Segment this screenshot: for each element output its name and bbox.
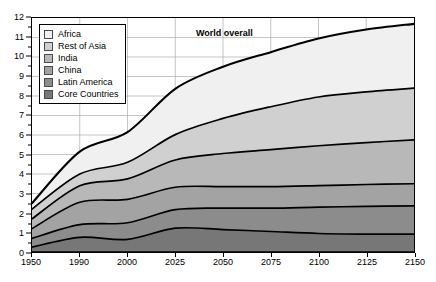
y-axis-tick-label: 5 — [19, 150, 24, 159]
y-axis-tick-mark — [26, 17, 31, 18]
legend-item-label: India — [58, 54, 78, 63]
y-axis-tick-mark — [26, 174, 31, 175]
y-axis-tick-label: 9 — [19, 72, 24, 81]
legend-item-label: China — [58, 66, 82, 75]
x-axis-tick-label: 2125 — [357, 257, 377, 267]
chart-root: 0123456789101112 19501990200020252050207… — [0, 0, 436, 282]
legend-item: India — [44, 52, 119, 64]
x-axis-tick-mark — [271, 253, 272, 257]
legend-item: Core Countries — [44, 88, 119, 100]
y-axis-minor-tick-mark — [28, 85, 31, 86]
legend-item-label: Core Countries — [58, 90, 119, 99]
y-axis-tick-mark — [26, 115, 31, 116]
y-axis-tick-mark — [26, 194, 31, 195]
y-axis-tick-label: 6 — [19, 131, 24, 140]
y-axis-tick-mark — [26, 233, 31, 234]
y-axis-tick-label: 11 — [15, 32, 24, 41]
y-axis-minor-tick-mark — [28, 46, 31, 47]
x-axis-tick-mark — [223, 253, 224, 257]
y-axis-tick-mark — [26, 135, 31, 136]
legend-item: Rest of Asia — [44, 40, 119, 52]
legend-item-label: Rest of Asia — [58, 42, 106, 51]
x-axis-tick-label: 2000 — [117, 257, 137, 267]
y-axis-tick-mark — [26, 76, 31, 77]
y-axis-minor-tick-mark — [28, 203, 31, 204]
legend-item-label: Africa — [58, 30, 81, 39]
x-axis-tick-label: 2050 — [213, 257, 233, 267]
y-axis-tick-mark — [26, 56, 31, 57]
legend-item: Africa — [44, 28, 119, 40]
x-axis-tick-mark — [175, 253, 176, 257]
x-axis-tick-label: 1950 — [21, 257, 41, 267]
y-axis-tick-label: 12 — [14, 13, 24, 22]
legend-color-swatch — [44, 78, 53, 87]
annotation-world-overall: World overall — [196, 28, 253, 38]
y-axis-tick-label: 7 — [19, 111, 24, 120]
y-axis-tick-label: 1 — [19, 229, 24, 238]
legend-item-label: Latin America — [58, 78, 113, 87]
y-axis-minor-tick-mark — [28, 125, 31, 126]
legend-color-swatch — [44, 54, 53, 63]
x-axis-tick-label: 2025 — [165, 257, 185, 267]
y-axis-minor-tick-mark — [28, 66, 31, 67]
y-axis-minor-tick-mark — [28, 26, 31, 27]
x-axis-tick-mark — [415, 253, 416, 257]
x-axis-tick-mark — [31, 253, 32, 257]
y-axis-minor-tick-mark — [28, 105, 31, 106]
x-axis-tick-label: 2150 — [405, 257, 425, 267]
x-axis-tick-label: 2100 — [309, 257, 329, 267]
legend-color-swatch — [44, 90, 53, 99]
x-axis-tick-mark — [319, 253, 320, 257]
legend: AfricaRest of AsiaIndiaChinaLatin Americ… — [39, 24, 126, 104]
x-axis-tick-mark — [367, 253, 368, 257]
legend-color-swatch — [44, 42, 53, 51]
y-axis-tick-mark — [26, 213, 31, 214]
legend-color-swatch — [44, 30, 53, 39]
x-axis-tick-mark — [79, 253, 80, 257]
x-axis-tick-label: 2075 — [261, 257, 281, 267]
y-axis-minor-tick-mark — [28, 144, 31, 145]
x-axis-tick-label: 1990 — [69, 257, 89, 267]
y-axis-tick-label: 8 — [19, 91, 24, 100]
y-axis-tick-label: 10 — [14, 52, 24, 61]
y-axis-minor-tick-mark — [28, 184, 31, 185]
y-axis-tick-mark — [26, 154, 31, 155]
y-axis: 0123456789101112 — [0, 0, 31, 282]
y-axis-minor-tick-mark — [28, 223, 31, 224]
y-axis-tick-label: 4 — [19, 170, 24, 179]
legend-color-swatch — [44, 66, 53, 75]
legend-item: China — [44, 64, 119, 76]
x-axis-tick-mark — [127, 253, 128, 257]
y-axis-minor-tick-mark — [28, 164, 31, 165]
y-axis-minor-tick-mark — [28, 243, 31, 244]
y-axis-tick-label: 3 — [19, 190, 24, 199]
y-axis-tick-mark — [26, 95, 31, 96]
legend-item: Latin America — [44, 76, 119, 88]
y-axis-tick-mark — [26, 36, 31, 37]
y-axis-tick-label: 2 — [19, 209, 24, 218]
